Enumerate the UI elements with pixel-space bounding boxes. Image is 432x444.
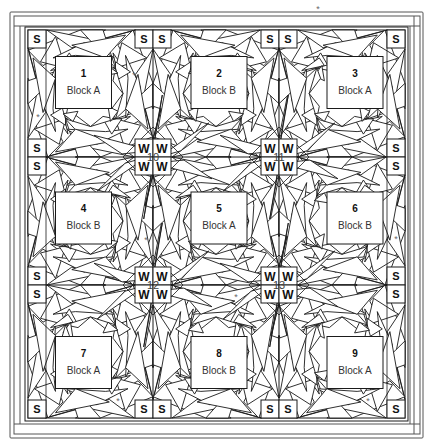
s-square: S xyxy=(153,400,171,418)
s-square: S xyxy=(153,30,171,48)
block-center-square xyxy=(56,192,112,244)
block-name: Block A xyxy=(67,85,101,96)
block-center-square xyxy=(191,337,247,389)
s-label: S xyxy=(33,270,40,282)
s-square: S xyxy=(135,30,153,48)
block-number: 9 xyxy=(352,348,358,359)
s-label: S xyxy=(392,288,399,300)
block-center-square xyxy=(56,57,112,109)
block-number: 6 xyxy=(352,203,358,214)
block-number: 1 xyxy=(81,68,87,79)
block-name: Block B xyxy=(202,85,236,96)
quilt-block-7 xyxy=(28,285,153,418)
s-square: S xyxy=(279,30,297,48)
s-square: S xyxy=(28,400,46,418)
block-name: Block B xyxy=(202,365,236,376)
marker-asterisk: * xyxy=(132,70,136,80)
block-number: 8 xyxy=(216,348,222,359)
block-center-square xyxy=(327,337,383,389)
s-square: S xyxy=(28,285,46,303)
s-label: S xyxy=(33,160,40,172)
block-name: Block A xyxy=(202,220,236,231)
s-label: S xyxy=(392,33,399,45)
s-label: S xyxy=(140,33,147,45)
s-square: S xyxy=(387,139,405,157)
s-square: S xyxy=(28,157,46,175)
block-number: 5 xyxy=(216,203,222,214)
s-label: S xyxy=(284,33,291,45)
s-square: S xyxy=(261,30,279,48)
marker-asterisk: * xyxy=(316,4,320,14)
block-number: 4 xyxy=(81,203,87,214)
junction-number: 13 xyxy=(273,279,285,291)
s-label: S xyxy=(33,33,40,45)
block-name: Block B xyxy=(338,220,372,231)
s-square: S xyxy=(279,400,297,418)
s-square: S xyxy=(387,400,405,418)
s-label: S xyxy=(392,160,399,172)
s-square: S xyxy=(261,400,279,418)
block-name: Block A xyxy=(338,85,372,96)
block-center-square xyxy=(327,57,383,109)
s-label: S xyxy=(158,403,165,415)
block-name: Block B xyxy=(67,220,101,231)
marker-asterisk: * xyxy=(366,396,370,406)
junction-number: 11 xyxy=(273,151,284,163)
s-square: S xyxy=(387,285,405,303)
s-label: S xyxy=(158,33,165,45)
marker-asterisk: * xyxy=(116,396,120,406)
s-square: S xyxy=(135,400,153,418)
s-label: S xyxy=(266,33,273,45)
marker-asterisk: * xyxy=(394,234,398,244)
s-square: S xyxy=(28,30,46,48)
block-name: Block A xyxy=(338,365,372,376)
block-center-square xyxy=(191,192,247,244)
s-label: S xyxy=(392,270,399,282)
s-square: S xyxy=(387,157,405,175)
block-number: 2 xyxy=(216,68,222,79)
s-label: S xyxy=(33,403,40,415)
s-label: S xyxy=(140,403,147,415)
s-label: S xyxy=(392,142,399,154)
s-square: S xyxy=(28,139,46,157)
s-label: S xyxy=(392,403,399,415)
quilt-canvas: SSSSSSSSSSSSSSSSSSSSWWWWWWWWWWWWWWWW 1Bl… xyxy=(0,0,432,444)
block-center-square xyxy=(56,337,112,389)
quilt-block-9 xyxy=(279,285,405,418)
block-number: 7 xyxy=(81,348,87,359)
marker-asterisk: * xyxy=(36,112,40,122)
marker-asterisk: * xyxy=(144,235,148,245)
s-square: S xyxy=(387,30,405,48)
block-center-square xyxy=(327,192,383,244)
s-label: S xyxy=(33,142,40,154)
s-square: S xyxy=(387,267,405,285)
s-square: S xyxy=(28,267,46,285)
block-number: 3 xyxy=(352,68,358,79)
junction-number: 12 xyxy=(147,279,159,291)
quilt-diagram: SSSSSSSSSSSSSSSSSSSSWWWWWWWWWWWWWWWW 1Bl… xyxy=(0,0,432,444)
s-label: S xyxy=(33,288,40,300)
junction-number: 10 xyxy=(147,151,159,163)
s-label: S xyxy=(266,403,273,415)
marker-asterisk: * xyxy=(234,292,238,302)
block-name: Block A xyxy=(67,365,101,376)
block-center-square xyxy=(191,57,247,109)
s-label: S xyxy=(284,403,291,415)
marker-asterisk: * xyxy=(266,164,270,174)
